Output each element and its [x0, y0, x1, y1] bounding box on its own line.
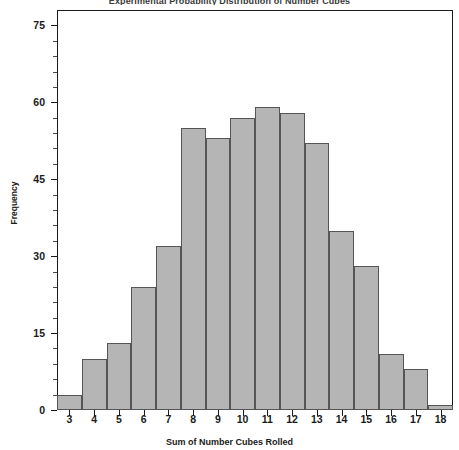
- histogram-bar: [57, 395, 82, 410]
- bars-layer: [0, 0, 459, 450]
- histogram-bar: [305, 143, 330, 410]
- histogram-bar: [131, 287, 156, 410]
- histogram-bar: [280, 113, 305, 410]
- histogram-bar: [428, 405, 453, 410]
- histogram-bar: [379, 354, 404, 410]
- histogram-bar: [255, 107, 280, 410]
- histogram-bar: [181, 128, 206, 410]
- histogram-bar: [206, 138, 231, 410]
- histogram-bar: [329, 231, 354, 410]
- histogram-bar: [230, 118, 255, 410]
- histogram-bar: [354, 266, 379, 410]
- histogram-bar: [404, 369, 429, 410]
- histogram-bar: [82, 359, 107, 410]
- histogram-bar: [156, 246, 181, 410]
- histogram-chart: Experimental Probability Distribution of…: [0, 0, 459, 450]
- histogram-bar: [107, 343, 132, 410]
